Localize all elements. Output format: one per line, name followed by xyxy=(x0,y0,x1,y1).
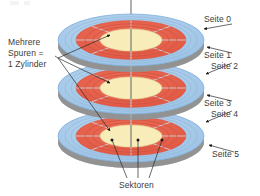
side-1-label: Seite 1 xyxy=(204,51,231,61)
side-3-label: Seite 3 xyxy=(204,99,231,109)
cylinder-label-line2: Spuren = xyxy=(8,48,46,59)
cylinder-label-line3: 1 Zylinder xyxy=(8,59,46,70)
leader-side-0 xyxy=(204,24,232,29)
scan-artifact xyxy=(10,1,30,5)
sector-dot-center xyxy=(137,139,140,142)
side-leaders xyxy=(204,24,234,152)
sector-dot-right xyxy=(161,139,164,142)
sector-dot-left xyxy=(111,139,114,142)
side-0-label: Seite 0 xyxy=(204,15,231,25)
sectors-label: Sektoren xyxy=(119,181,154,191)
cylinder-label: Mehrere Spuren = 1 Zylinder xyxy=(8,37,46,70)
leader-cylinder-stem xyxy=(55,56,58,58)
side-4-label: Seite 4 xyxy=(211,110,238,120)
side-2-label: Seite 2 xyxy=(211,62,238,72)
side-5-label: Seite 5 xyxy=(212,150,239,160)
cylinder-label-line1: Mehrere xyxy=(8,37,46,48)
